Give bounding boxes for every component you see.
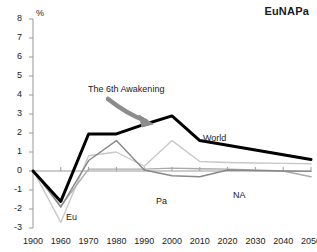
y-tick-label: -1 [6, 184, 22, 194]
y-tick-label: 0 [6, 165, 22, 175]
y-tick-label: 5 [6, 70, 22, 80]
series-line-pa [33, 168, 311, 206]
x-tick-label: 1900 [18, 236, 48, 246]
series-line-na [33, 141, 311, 208]
y-axis-unit-label: % [36, 8, 44, 18]
x-tick-label: 2020 [213, 236, 243, 246]
x-tick-label: 2050 [296, 236, 317, 246]
x-tick-label: 1990 [129, 236, 159, 246]
y-tick-label: 6 [6, 51, 22, 61]
x-tick-label: 2030 [240, 236, 270, 246]
y-tick-label: 7 [6, 32, 22, 42]
y-tick-label: -2 [6, 203, 22, 213]
x-tick-label: 1970 [74, 236, 104, 246]
chart-plot-area [0, 0, 317, 252]
series-label-pa: Pa [156, 196, 167, 206]
series-label-world: World [203, 133, 226, 143]
annotation-label: The 6th Awakening [88, 84, 164, 94]
x-tick-label: 2040 [268, 236, 298, 246]
x-tick-label: 1960 [46, 236, 76, 246]
y-tick-label: 4 [6, 89, 22, 99]
series-label-na: NA [233, 190, 246, 200]
x-tick-label: 2010 [185, 236, 215, 246]
y-tick-label: -3 [6, 222, 22, 232]
y-tick-label: 3 [6, 108, 22, 118]
y-tick-label: 2 [6, 127, 22, 137]
chart-container: EuNAPa -3-2-1012345678%19001960197019801… [0, 0, 317, 252]
x-tick-label: 2000 [157, 236, 187, 246]
series-label-eu: Eu [66, 212, 77, 222]
x-tick-label: 1980 [101, 236, 131, 246]
y-tick-label: 8 [6, 13, 22, 23]
y-tick-label: 1 [6, 146, 22, 156]
